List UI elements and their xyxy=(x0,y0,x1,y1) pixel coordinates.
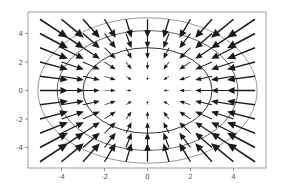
quiver-arrow xyxy=(146,76,149,80)
quiver-arrow xyxy=(179,76,190,80)
quiver-arrow xyxy=(126,101,132,105)
quiver-arrow xyxy=(179,122,191,133)
quiver-arrow xyxy=(144,19,151,38)
quiver-arrow xyxy=(126,62,132,70)
quiver-arrow xyxy=(104,62,115,70)
quiver-arrow xyxy=(179,112,190,120)
quiver-arrow xyxy=(195,122,212,134)
x-tick-label: -2 xyxy=(101,173,108,181)
quiver-arrow xyxy=(83,47,100,59)
x-axis-ticks: -4-2024 xyxy=(58,168,236,181)
quiver-arrow xyxy=(163,62,169,70)
quiver-arrow xyxy=(195,62,212,70)
quiver-arrow xyxy=(145,122,150,133)
quiver-arrow xyxy=(163,101,169,105)
quiver-arrow xyxy=(126,89,132,92)
y-tick-label: -4 xyxy=(16,144,24,152)
quiver-arrow xyxy=(195,88,212,93)
y-tick-label: 0 xyxy=(19,87,23,95)
quiver-arrow xyxy=(146,62,150,69)
quiver-arrow xyxy=(126,112,132,120)
x-tick-label: 4 xyxy=(231,173,236,181)
quiver-arrow xyxy=(179,89,190,93)
plot-area xyxy=(38,18,257,163)
quiver-arrow xyxy=(146,101,149,105)
quiver-arrow xyxy=(104,101,115,105)
y-axis-ticks: 420-2-4 xyxy=(16,30,28,152)
quiver-arrow xyxy=(104,76,115,80)
quiver-arrow xyxy=(83,122,100,134)
quiver-arrow xyxy=(83,88,100,93)
quiver-arrow xyxy=(62,88,84,94)
quiver-arrow xyxy=(104,112,115,120)
quiver-arrow xyxy=(227,87,255,94)
x-tick-label: 0 xyxy=(145,173,149,181)
quiver-arrow xyxy=(145,133,151,148)
quiver-arrow xyxy=(163,112,169,120)
x-tick-label: -4 xyxy=(58,173,66,181)
quiver-arrow xyxy=(105,89,116,93)
y-tick-label: -2 xyxy=(16,116,23,124)
quiver-arrow xyxy=(104,122,116,133)
quiver-arrow xyxy=(179,62,190,70)
quiver-arrow xyxy=(179,47,191,58)
quiver-arrow xyxy=(195,112,212,120)
quiver-figure: -4-2024 420-2-4 xyxy=(0,0,282,191)
quiver-arrow xyxy=(146,112,150,119)
quiver-arrows xyxy=(40,19,256,163)
quiver-arrow xyxy=(104,47,116,58)
quiver-arrow xyxy=(179,101,190,105)
quiver-arrow xyxy=(163,76,169,80)
quiver-arrow xyxy=(163,89,169,92)
x-tick-label: 2 xyxy=(188,173,192,181)
y-tick-label: 2 xyxy=(19,59,23,67)
contour-r=3 xyxy=(83,48,212,134)
quiver-arrow xyxy=(83,62,100,70)
y-tick-label: 4 xyxy=(19,30,24,38)
quiver-arrow xyxy=(195,47,212,59)
quiver-arrow xyxy=(145,48,150,59)
quiver-arrow xyxy=(126,76,132,80)
quiver-arrow xyxy=(83,112,100,120)
